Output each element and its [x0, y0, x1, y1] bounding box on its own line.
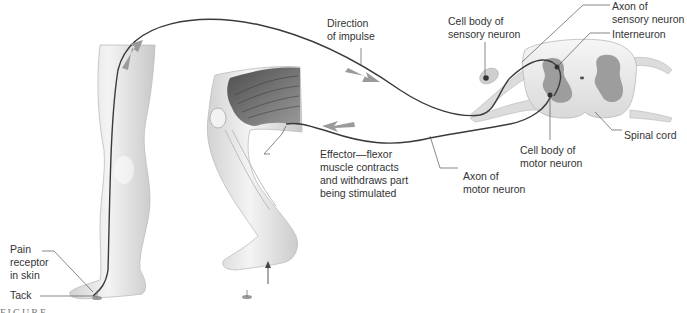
label-cell-body-sensory: Cell body of sensory neuron — [448, 15, 520, 41]
motor-cell-body — [548, 93, 553, 98]
tack-icon-2 — [242, 290, 252, 299]
figure-caption-fragment: FIGURE — [0, 305, 48, 313]
arrow-right-icon — [345, 68, 380, 82]
spinal-cord — [470, 39, 672, 122]
label-effector: Effector—flexor muscle contracts and wit… — [320, 148, 408, 200]
sensory-cell-body — [483, 75, 489, 81]
reflex-arc-diagram: Direction of impulse Cell body of sensor… — [0, 0, 687, 313]
label-cell-body-motor: Cell body of motor neuron — [520, 144, 582, 170]
label-tack: Tack — [10, 289, 32, 302]
label-interneuron: Interneuron — [612, 28, 666, 41]
bent-leg — [207, 67, 302, 270]
label-direction-of-impulse: Direction of impulse — [327, 17, 375, 43]
label-pain-receptor: Pain receptor in skin — [10, 243, 49, 282]
label-axon-motor: Axon of motor neuron — [463, 170, 525, 196]
standing-leg — [70, 45, 155, 299]
label-spinal-cord: Spinal cord — [624, 129, 677, 142]
label-axon-sensory: Axon of sensory neuron — [612, 0, 684, 26]
flexor-muscle — [227, 67, 300, 126]
